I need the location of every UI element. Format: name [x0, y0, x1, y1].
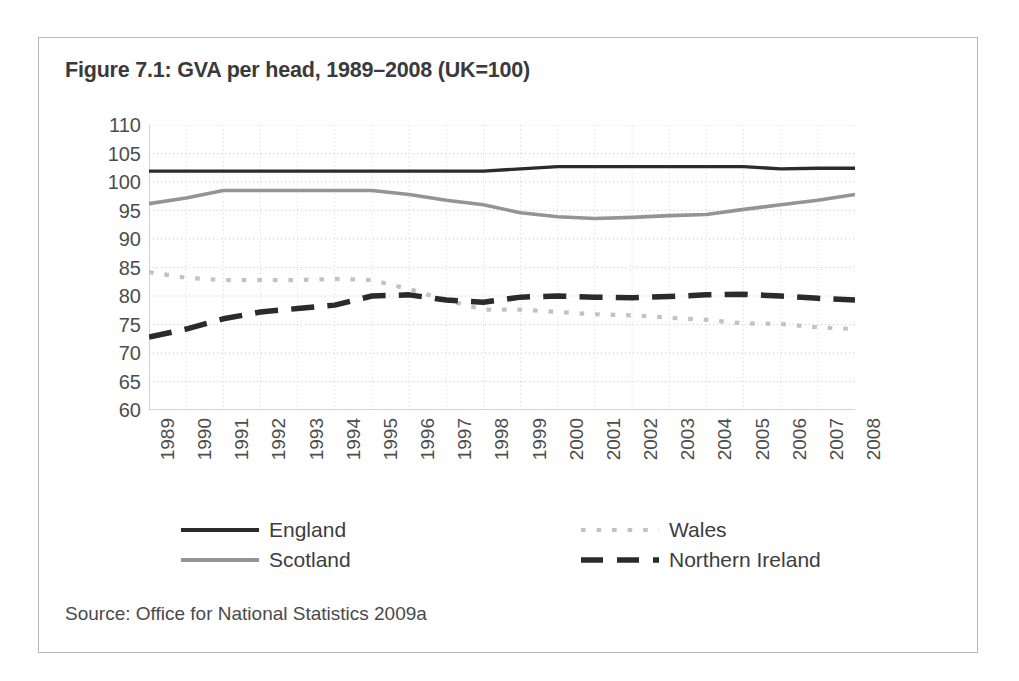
y-tick-85: 85: [119, 258, 141, 278]
x-tick-1989: 1989: [157, 418, 179, 460]
x-tick-1995: 1995: [380, 418, 402, 460]
y-tick-100: 100: [108, 172, 141, 192]
source-note: Source: Office for National Statistics 2…: [65, 603, 427, 625]
x-tick-2008: 2008: [863, 418, 885, 460]
x-tick-1990: 1990: [194, 418, 216, 460]
legend-key-scotland-icon: [179, 549, 261, 571]
chart-svg: [149, 125, 855, 410]
x-tick-1997: 1997: [454, 418, 476, 460]
legend-label-scotland: Scotland: [269, 548, 351, 572]
y-tick-60: 60: [119, 400, 141, 420]
x-tick-1993: 1993: [306, 418, 328, 460]
x-tick-1991: 1991: [231, 418, 253, 460]
legend-entry-northern-ireland[interactable]: Northern Ireland: [579, 546, 821, 574]
legend-key-england-swatch: [179, 519, 261, 541]
legend-entry-england[interactable]: England: [179, 516, 346, 544]
x-tick-2006: 2006: [789, 418, 811, 460]
x-tick-2001: 2001: [603, 418, 625, 460]
chart-container: 6065707580859095100105110 19891990199119…: [39, 38, 979, 654]
y-tick-110: 110: [109, 115, 141, 135]
y-tick-95: 95: [119, 201, 141, 221]
plot-area: [149, 125, 855, 410]
legend-key-wales-icon: [579, 519, 661, 541]
series-line-northern-ireland: [149, 294, 855, 337]
x-tick-2007: 2007: [826, 418, 848, 460]
series-line-england: [149, 167, 855, 172]
y-tick-70: 70: [119, 343, 141, 363]
y-tick-90: 90: [119, 229, 141, 249]
figure-frame: Figure 7.1: GVA per head, 1989–2008 (UK=…: [38, 37, 978, 653]
x-tick-2004: 2004: [714, 418, 736, 460]
legend-key-england-icon: [179, 519, 261, 541]
chart-legend: EnglandScotlandWalesNorthern Ireland: [179, 516, 879, 586]
legend-key-scotland-swatch: [179, 549, 261, 571]
series-line-scotland: [149, 191, 855, 219]
y-tick-105: 105: [108, 144, 141, 164]
x-tick-1994: 1994: [343, 418, 365, 460]
legend-label-england: England: [269, 518, 346, 542]
x-tick-2003: 2003: [677, 418, 699, 460]
x-tick-1999: 1999: [529, 418, 551, 460]
x-tick-2002: 2002: [640, 418, 662, 460]
legend-entry-wales[interactable]: Wales: [579, 516, 727, 544]
series-line-wales: [149, 272, 855, 329]
legend-key-wales-swatch: [579, 519, 661, 541]
x-tick-2000: 2000: [566, 418, 588, 460]
x-tick-1998: 1998: [491, 418, 513, 460]
y-tick-80: 80: [119, 286, 141, 306]
y-tick-75: 75: [119, 315, 141, 335]
legend-entry-scotland[interactable]: Scotland: [179, 546, 351, 574]
legend-key-northern-ireland-icon: [579, 549, 661, 571]
y-tick-65: 65: [119, 372, 141, 392]
legend-label-wales: Wales: [669, 518, 727, 542]
legend-key-northern-ireland-swatch: [579, 549, 661, 571]
x-tick-2005: 2005: [752, 418, 774, 460]
x-tick-1996: 1996: [417, 418, 439, 460]
x-tick-1992: 1992: [268, 418, 290, 460]
y-axis-tick-labels: 6065707580859095100105110: [59, 125, 141, 410]
x-axis-tick-labels: 1989199019911992199319941995199619971998…: [149, 414, 855, 524]
legend-label-northern-ireland: Northern Ireland: [669, 548, 821, 572]
